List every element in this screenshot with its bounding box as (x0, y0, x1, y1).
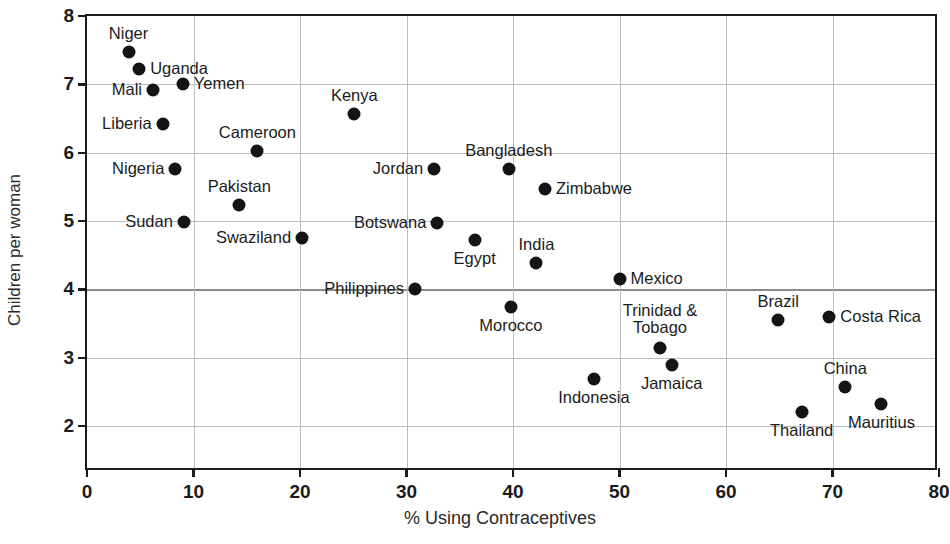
data-point[interactable] (587, 373, 600, 386)
y-tick-mark (78, 220, 87, 223)
data-point[interactable] (348, 108, 361, 121)
data-point[interactable] (823, 310, 836, 323)
point-label: Brazil (758, 292, 799, 309)
y-tick-label: 7 (63, 73, 74, 95)
data-point[interactable] (169, 163, 182, 176)
point-label: Nigeria (112, 160, 164, 177)
x-tick-mark (299, 468, 302, 477)
data-point[interactable] (428, 163, 441, 176)
data-point[interactable] (502, 163, 515, 176)
y-tick-label: 5 (63, 210, 74, 232)
x-tick-mark (192, 468, 195, 477)
data-point[interactable] (233, 198, 246, 211)
x-tick-mark (405, 468, 408, 477)
data-point[interactable] (251, 144, 264, 157)
point-label: Pakistan (208, 177, 271, 194)
point-label: Egypt (454, 250, 496, 267)
data-point[interactable] (147, 83, 160, 96)
point-label: Mauritius (848, 414, 915, 431)
data-point[interactable] (665, 358, 678, 371)
x-tick-label: 20 (289, 481, 310, 503)
data-point[interactable] (122, 45, 135, 58)
point-label: Mexico (631, 270, 683, 287)
data-point[interactable] (409, 283, 422, 296)
y-tick-mark (78, 425, 87, 428)
point-label: Philippines (324, 281, 404, 298)
x-tick-label: 80 (928, 481, 949, 503)
x-tick-label: 60 (715, 481, 736, 503)
data-point[interactable] (431, 217, 444, 230)
point-label: Botswana (354, 214, 426, 231)
x-tick-mark (512, 468, 515, 477)
point-label: Morocco (479, 317, 542, 334)
point-label: Mali (112, 81, 142, 98)
data-point[interactable] (177, 216, 190, 229)
x-tick-mark (725, 468, 728, 477)
point-label: Trinidad &Tobago (623, 302, 698, 337)
x-tick-label: 10 (183, 481, 204, 503)
y-tick-label: 2 (63, 415, 74, 437)
point-label: Bangladesh (465, 142, 552, 159)
data-point[interactable] (653, 341, 666, 354)
y-tick-mark (78, 152, 87, 155)
point-label: Cameroon (219, 123, 296, 140)
data-point[interactable] (296, 231, 309, 244)
data-point[interactable] (504, 301, 517, 314)
x-tick-mark (618, 468, 621, 477)
point-label: Thailand (770, 422, 833, 439)
point-label: Jamaica (641, 375, 702, 392)
y-tick-mark (78, 15, 87, 18)
gridline-vertical (726, 16, 727, 468)
y-tick-mark (78, 357, 87, 360)
gridline-horizontal (87, 289, 935, 291)
data-point[interactable] (772, 313, 785, 326)
point-label: Liberia (102, 115, 152, 132)
point-label: India (519, 236, 555, 253)
data-point[interactable] (530, 257, 543, 270)
data-point[interactable] (133, 63, 146, 76)
data-point[interactable] (176, 78, 189, 91)
x-tick-label: 40 (502, 481, 523, 503)
y-tick-mark (78, 83, 87, 86)
gridline-vertical (833, 16, 834, 468)
point-label: Sudan (125, 214, 173, 231)
point-label: Indonesia (558, 389, 630, 406)
x-tick-label: 50 (609, 481, 630, 503)
data-point[interactable] (538, 182, 551, 195)
y-tick-label: 8 (63, 5, 74, 27)
point-label: Yemen (194, 76, 245, 93)
y-tick-label: 4 (63, 278, 74, 300)
x-tick-label: 30 (396, 481, 417, 503)
x-tick-mark (831, 468, 834, 477)
data-point[interactable] (795, 405, 808, 418)
x-tick-mark (938, 468, 941, 477)
data-point[interactable] (839, 381, 852, 394)
y-tick-mark (78, 288, 87, 291)
gridline-vertical (513, 16, 514, 468)
y-axis-title: Children per woman (5, 150, 25, 350)
point-label: Swaziland (216, 229, 291, 246)
y-tick-label: 6 (63, 142, 74, 164)
x-axis-title: % Using Contraceptives (404, 508, 596, 529)
plot-area: 2345678 01020304050607080 NigerUgandaMal… (85, 14, 937, 470)
y-tick-label: 3 (63, 347, 74, 369)
point-label: Zimbabwe (556, 180, 632, 197)
gridline-horizontal (87, 358, 935, 359)
x-tick-label: 0 (82, 481, 93, 503)
gridline-vertical (407, 16, 408, 468)
gridline-horizontal (87, 221, 935, 222)
data-point[interactable] (156, 118, 169, 131)
data-point[interactable] (468, 234, 481, 247)
point-label: China (824, 360, 867, 377)
data-point[interactable] (613, 272, 626, 285)
data-point[interactable] (875, 397, 888, 410)
point-label: Costa Rica (840, 308, 921, 325)
point-label: Jordan (373, 160, 423, 177)
point-label: Kenya (331, 87, 378, 104)
x-tick-mark (86, 468, 89, 477)
point-label: Niger (109, 24, 148, 41)
x-tick-label: 70 (822, 481, 843, 503)
